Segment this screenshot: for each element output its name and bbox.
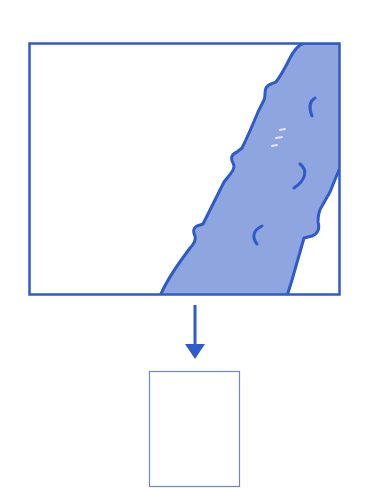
diagram-canvas	[0, 0, 366, 488]
down-arrow-icon	[185, 305, 205, 359]
target-frame	[150, 372, 240, 487]
source-image	[30, 43, 343, 296]
